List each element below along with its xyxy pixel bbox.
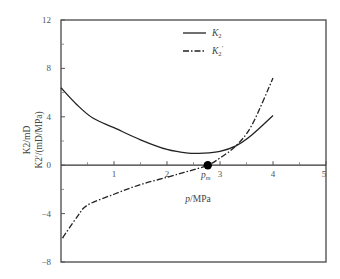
y-tick-label: 0 [47,160,52,170]
legend-label: K2′ [211,44,224,57]
y-tick-label: 8 [47,63,52,73]
x-tick-label: 1 [112,169,117,179]
y-axis-label-line2: K2'/(mD/MPa) [34,111,45,168]
y-tick-label: 12 [42,15,51,25]
x-tick-label: 5 [322,169,327,179]
x-tick-label: 3 [218,169,223,179]
pm-label: pm [200,170,211,181]
x-tick-label: 4 [271,169,276,179]
chart: 12840−4−812345 K2K2′ pmp/MPaK2/mDK2'/(mD… [0,0,340,279]
pm-marker [204,161,212,169]
y-axis-label: K2/mDK2'/(mD/MPa) [22,111,45,168]
legend-label: K2 [211,28,222,39]
y-tick-label: −8 [41,257,51,267]
y-tick-label: −4 [41,209,51,219]
y-tick-label: 4 [47,112,52,122]
series-k2-line [61,88,273,154]
series-k2-prime-line [63,78,273,238]
plot-frame [61,20,326,262]
y-axis-label-line1: K2/mD [22,126,32,155]
x-axis-label: p/MPa [184,194,211,204]
